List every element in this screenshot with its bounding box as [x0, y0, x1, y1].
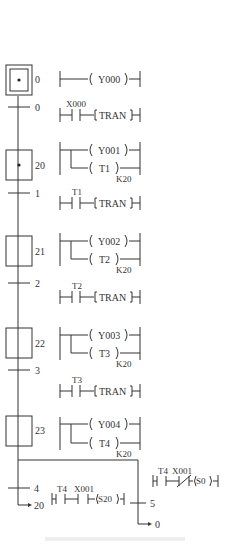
step-label: 0 [35, 74, 40, 85]
rung-tran-4 [52, 493, 124, 505]
step-label: 22 [35, 338, 45, 349]
contact-label: T2 [72, 281, 82, 291]
step-22 [6, 328, 32, 358]
transition-label: 1 [35, 188, 40, 199]
coil-label: TRAN [99, 386, 126, 397]
jump-target-label: 20 [34, 500, 44, 511]
step-label: 21 [35, 246, 45, 257]
sfc-diagram: 0 Y000 0 X000 TRAN 20 Y001 [0, 0, 227, 545]
timer-label: T4 [99, 438, 110, 449]
contact-label: X001 [74, 484, 94, 494]
active-token-icon [17, 78, 20, 81]
contact-label: T3 [72, 375, 82, 385]
step-23 [6, 416, 32, 446]
contact-label: X001 [172, 466, 192, 476]
transition-label: 3 [35, 365, 40, 376]
arrow-head-icon [28, 503, 32, 507]
coil-label: S20 [98, 494, 113, 504]
active-token-icon [17, 163, 20, 166]
coil-label: Y000 [98, 74, 120, 85]
timer-const: K20 [116, 359, 132, 369]
coil-label: TRAN [99, 110, 126, 121]
jump-target-label: 0 [155, 519, 160, 530]
coil-label: TRAN [99, 198, 126, 209]
timer-label: T1 [99, 163, 110, 174]
coil-label: S0 [196, 476, 206, 486]
contact-label: X000 [66, 99, 86, 109]
contact-label: T4 [158, 466, 168, 476]
coil-label: TRAN [99, 292, 126, 303]
timer-const: K20 [116, 449, 132, 459]
timer-const: K20 [116, 174, 132, 184]
timer-const: K20 [116, 265, 132, 275]
timer-label: T2 [99, 254, 110, 265]
coil-label: Y001 [98, 145, 120, 156]
step-label: 23 [35, 425, 45, 436]
coil-label: Y002 [98, 236, 120, 247]
transition-label: 2 [35, 278, 40, 289]
coil-label: Y003 [98, 330, 120, 341]
contact-label: T4 [57, 484, 67, 494]
step-0-initial [6, 65, 32, 95]
figure-caption-faded [45, 537, 185, 541]
arrow-head-icon [148, 522, 152, 526]
transition-label: 5 [150, 498, 155, 509]
transition-label: 0 [35, 102, 40, 113]
contact-label: T1 [72, 187, 82, 197]
step-21 [6, 236, 32, 266]
timer-label: T3 [99, 348, 110, 359]
coil-label: Y004 [98, 419, 120, 430]
step-label: 20 [35, 160, 45, 171]
rung-tran-5 [153, 475, 218, 487]
transition-label: 4 [34, 483, 39, 494]
